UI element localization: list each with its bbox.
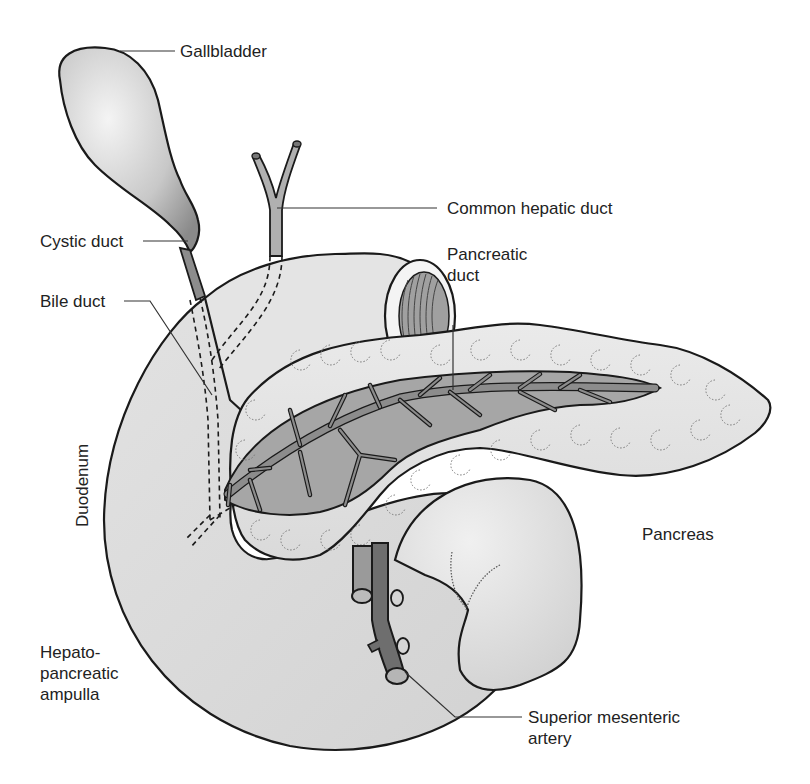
anatomy-figure: Gallbladder Common hepatic duct Cystic d… (0, 0, 810, 784)
gallbladder (59, 47, 199, 252)
label-pancreatic-duct: Pancreatic duct (447, 244, 527, 286)
label-gallbladder: Gallbladder (180, 41, 267, 62)
label-bile-duct: Bile duct (40, 291, 105, 312)
cystic-duct (180, 248, 205, 300)
label-duodenum: Duodenum (72, 444, 93, 527)
label-pancreas: Pancreas (642, 524, 714, 545)
common-hepatic-duct (252, 141, 301, 256)
label-cystic-duct: Cystic duct (40, 231, 123, 252)
label-common-hepatic-duct: Common hepatic duct (447, 198, 612, 219)
label-superior-mesenteric-artery: Superior mesenteric artery (528, 707, 680, 749)
label-hepatopancreatic-ampulla: Hepato- pancreatic ampulla (40, 642, 118, 705)
anatomy-illustration (0, 0, 810, 784)
